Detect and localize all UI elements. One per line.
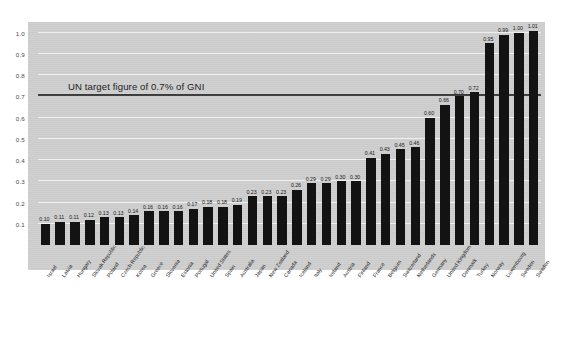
x-axis-label-slot: Belgium [378,272,393,344]
x-axis-label-slot: Slovenia [156,272,171,344]
bar-value-label: 0.12 [84,212,94,218]
bar-column[interactable]: 0.45 [393,22,408,245]
bar[interactable] [292,190,301,245]
bar[interactable] [174,211,183,245]
bar-column[interactable]: 0.60 [423,22,438,245]
bar-column[interactable]: 0.99 [497,22,512,245]
x-axis-labels: IsraelLatviaHungarySlovak RepublicPoland… [38,272,541,344]
bar[interactable] [100,217,109,245]
bar-column[interactable]: 0.30 [334,22,349,245]
bar-column[interactable]: 0.46 [408,22,423,245]
y-axis-tick: 0.3 [16,178,25,185]
bar[interactable] [70,222,79,245]
bar-column[interactable]: 0.43 [378,22,393,245]
bar-column[interactable]: 0.11 [68,22,83,245]
x-axis-label-slot: Hungary [68,272,83,344]
x-axis-label-slot: Germany [423,272,438,344]
y-axis-tick: 0.6 [16,114,25,121]
bar[interactable] [277,196,286,245]
bar-column[interactable]: 0.41 [364,22,379,245]
bar[interactable] [366,158,375,245]
bar-column[interactable]: 0.19 [230,22,245,245]
bar-value-label: 0.46 [409,140,419,146]
x-axis-label-slot: Netherlands [408,272,423,344]
bar-column[interactable]: 0.23 [245,22,260,245]
bar-column[interactable]: 0.12 [82,22,97,245]
x-axis-label-slot: Switzerland [393,272,408,344]
bar-column[interactable]: 0.16 [156,22,171,245]
bar-column[interactable]: 1.00 [512,22,527,245]
bar-column[interactable]: 0.70 [452,22,467,245]
bar[interactable] [144,211,153,245]
bar[interactable] [263,196,272,245]
bar-column[interactable]: 1.01 [526,22,541,245]
bar-value-label: 0.16 [173,204,183,210]
bar-column[interactable]: 0.10 [38,22,53,245]
bar-value-label: 0.72 [468,85,478,91]
bar-value-label: 0.23 [261,189,271,195]
bar[interactable] [440,105,449,245]
bar[interactable] [470,92,479,245]
bar[interactable] [115,217,124,245]
bar[interactable] [129,215,138,245]
bar[interactable] [499,35,508,245]
bar-column[interactable]: 0.29 [304,22,319,245]
bar-value-label: 0.45 [394,142,404,148]
bar-column[interactable]: 0.11 [53,22,68,245]
bar-column[interactable]: 0.16 [171,22,186,245]
bar[interactable] [514,33,523,245]
x-axis-label-slot: Estonia [171,272,186,344]
bar-value-label: 0.17 [187,201,197,207]
bar[interactable] [55,222,64,245]
bar[interactable] [203,207,212,245]
bar[interactable] [425,118,434,245]
x-axis-label-slot: Slovak Republic [82,272,97,344]
bar[interactable] [85,220,94,245]
bar-column[interactable]: 0.30 [349,22,364,245]
bar-column[interactable]: 0.13 [97,22,112,245]
bar[interactable] [218,207,227,245]
bar-value-label: 0.13 [99,210,109,216]
x-axis-label-slot: Sweden [512,272,527,344]
bar-column[interactable]: 0.23 [275,22,290,245]
bar-column[interactable]: 0.14 [127,22,142,245]
bar[interactable] [233,205,242,245]
bar[interactable] [485,43,494,245]
x-axis-label-slot: Poland [97,272,112,344]
bar-column[interactable]: 0.18 [216,22,231,245]
x-axis-label-slot: Portugal [186,272,201,344]
bar[interactable] [189,209,198,245]
bar-column[interactable]: 0.23 [260,22,275,245]
bar-value-label: 1.01 [528,23,538,29]
bar-value-label: 0.13 [113,210,123,216]
y-axis-tick: 0.5 [16,135,25,142]
bar[interactable] [381,154,390,245]
bar-value-label: 0.16 [143,204,153,210]
bar-column[interactable]: 0.29 [319,22,334,245]
bar-column[interactable]: 0.17 [186,22,201,245]
bar[interactable] [159,211,168,245]
bar[interactable] [307,183,316,245]
bar[interactable] [248,196,257,245]
bar-column[interactable]: 0.18 [201,22,216,245]
bar[interactable] [529,31,538,246]
bar-column[interactable]: 0.13 [112,22,127,245]
bar-column[interactable]: 0.95 [482,22,497,245]
x-axis-label-slot: Australia [230,272,245,344]
x-axis-label-slot: Italy [304,272,319,344]
bar[interactable] [351,181,360,245]
bar[interactable] [337,181,346,245]
bar[interactable] [322,183,331,245]
x-axis-label-slot: Korea [127,272,142,344]
x-axis-label-slot: Iceland [290,272,305,344]
bar-column[interactable]: 0.66 [438,22,453,245]
bar-column[interactable]: 0.16 [142,22,157,245]
bar[interactable] [396,149,405,245]
bar[interactable] [41,224,50,245]
bar-column[interactable]: 0.26 [290,22,305,245]
x-axis-label-slot: Latvia [53,272,68,344]
bar[interactable] [455,96,464,245]
bar-column[interactable]: 0.72 [467,22,482,245]
y-axis-tick: 1.0 [16,29,25,36]
bar[interactable] [411,147,420,245]
